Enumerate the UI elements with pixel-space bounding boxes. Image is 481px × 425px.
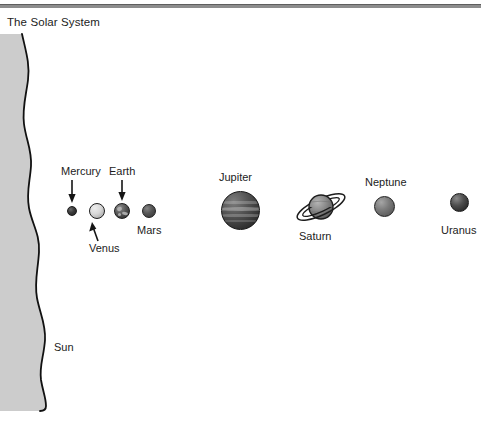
planet-uranus [450, 193, 469, 212]
earth-landmass [122, 211, 128, 215]
label-saturn: Saturn [299, 230, 331, 242]
solar-system-figure: The Solar System Sun [0, 0, 481, 425]
planet-jupiter [221, 191, 260, 230]
page-title: The Solar System [7, 16, 100, 28]
sun-label: Sun [54, 341, 74, 353]
earth-landmass [118, 213, 121, 216]
planet-mercury [67, 206, 77, 216]
planet-venus [89, 203, 105, 219]
planet-earth [114, 203, 130, 219]
planet-neptune [374, 196, 395, 217]
label-venus: Venus [89, 242, 120, 254]
top-divider-rule [0, 4, 481, 8]
label-mars: Mars [137, 224, 161, 236]
planet-mars [142, 204, 156, 218]
sun-shape [0, 30, 100, 415]
label-earth: Earth [109, 165, 135, 177]
jupiter-band [221, 220, 260, 222]
jupiter-band [221, 214, 260, 217]
jupiter-band [221, 201, 260, 204]
label-neptune: Neptune [365, 176, 407, 188]
earth-landmass [117, 206, 123, 211]
jupiter-band [221, 207, 260, 211]
label-jupiter: Jupiter [219, 171, 252, 183]
earth-arrow [118, 180, 125, 201]
label-uranus: Uranus [441, 224, 476, 236]
planet-saturn [292, 181, 350, 233]
label-mercury: Mercury [61, 165, 101, 177]
